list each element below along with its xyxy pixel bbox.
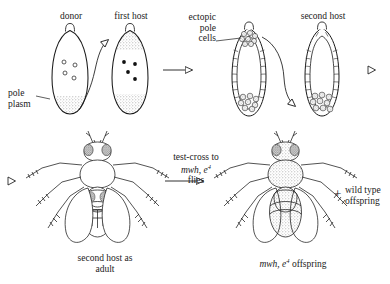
first-host-nuclei — [122, 60, 137, 81]
label-ectopic-pole-cells: ectopicpolecells — [168, 12, 216, 44]
blastoderm2-micropyle — [318, 22, 327, 30]
label-second-host: second host — [286, 12, 360, 22]
fly1-eye-right — [102, 144, 111, 155]
second-host-blastoderm — [305, 22, 339, 116]
arrow-blastoderm-transplant — [262, 37, 295, 106]
fly1-wing-right — [102, 188, 130, 242]
pole-plasm-line2: plasm — [8, 99, 31, 109]
pole-cells-posterior-2 — [310, 92, 333, 112]
test-cross-genotype: mwh, e — [181, 165, 208, 175]
test-cross-line3: flies — [188, 175, 204, 185]
fly2-thorax — [268, 160, 303, 188]
arrow-head-right-top — [368, 66, 376, 74]
fly1-eye-left — [84, 144, 93, 155]
fly1-wing-left — [65, 188, 93, 242]
donor-embryo — [36, 24, 92, 119]
ectopic-line2: pole — [200, 23, 216, 33]
offspring-rest: offspring — [290, 259, 327, 269]
ectopic-pole-cells-leader-line — [216, 38, 241, 41]
label-donor: donor — [44, 12, 98, 22]
test-cross-superscript: 4 — [208, 163, 211, 170]
second-host-adult-fly — [26, 131, 169, 242]
blastoderm1-micropyle — [245, 22, 254, 30]
label-wild-type-offspring: wild typeoffspring — [345, 185, 390, 206]
wild-type-line2: offspring — [345, 196, 380, 206]
first-host-pole-plasm-stipple — [110, 28, 152, 118]
test-cross-line1: test-cross to — [173, 152, 219, 162]
label-second-host-as-adult: second host asadult — [50, 253, 160, 274]
first-host-embryo — [110, 24, 152, 119]
plus-sign: + — [334, 186, 341, 202]
donor-nuclei — [62, 60, 77, 80]
ectopic-line3: cells — [199, 33, 216, 43]
first-host-blastoderm — [216, 22, 266, 116]
fly1-thorax — [80, 160, 115, 188]
fly2-eye-right — [290, 144, 299, 155]
arrow-head-left-bottom — [8, 177, 16, 185]
second-host-adult-line1: second host as — [78, 253, 133, 263]
ectopic-line1: ectopic — [189, 12, 216, 22]
label-test-cross: test-cross tomwh, e4flies — [160, 152, 232, 186]
label-first-host: first host — [102, 12, 160, 22]
wild-type-line1: wild type — [345, 185, 381, 195]
second-host-adult-line2: adult — [96, 264, 115, 274]
pole-plasm-line1: pole — [8, 88, 24, 98]
donor-pole-plasm-stipple — [50, 96, 92, 118]
label-pole-plasm: poleplasm — [8, 88, 42, 110]
label-offspring: mwh, e4 offspring — [238, 258, 348, 270]
offspring-genotype: mwh, e — [259, 259, 286, 269]
fly2-eye-left — [272, 144, 281, 155]
